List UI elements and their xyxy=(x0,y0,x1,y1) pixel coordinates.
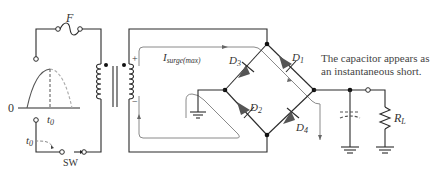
fuse-label: F xyxy=(65,11,74,25)
ground-wire xyxy=(198,90,225,112)
waveform-dashed-half xyxy=(50,69,72,108)
transformer-core xyxy=(113,66,117,107)
secondary-polarity-dot xyxy=(122,63,126,67)
primary-top-wire-right xyxy=(82,29,101,64)
load-wire-top xyxy=(370,90,385,107)
switch-terminal-left xyxy=(60,150,65,155)
output-circuit xyxy=(314,88,394,153)
d1-label: D1 xyxy=(291,51,304,65)
surge-current-label: Isurge(max) xyxy=(162,51,201,65)
t0-wave-label: t0 xyxy=(47,113,54,127)
load-label: RL xyxy=(393,111,406,126)
switch-timing-arrow xyxy=(35,141,52,146)
resistor-icon xyxy=(380,107,390,129)
primary-coil-icon xyxy=(97,64,102,99)
primary-terminal-bottom[interactable] xyxy=(34,118,39,123)
fuse-terminal-right xyxy=(78,27,83,32)
fuse-terminal-left xyxy=(56,27,61,32)
d2-label: D2 xyxy=(249,101,262,115)
output-terminal[interactable] xyxy=(366,88,371,93)
switch-timing-arrowhead-icon xyxy=(51,145,54,149)
primary-bottom-wire-left xyxy=(36,122,60,152)
d3-label: D3 xyxy=(228,54,241,68)
current-return-path xyxy=(139,94,239,138)
primary-circuit xyxy=(34,23,108,154)
primary-polarity-dot xyxy=(104,63,108,67)
capacitor-note-line1: The capacitor appears as xyxy=(321,52,429,64)
t0-switch-label: t0 xyxy=(26,134,33,148)
zero-label: 0 xyxy=(8,101,14,115)
current-up-arrow-icon xyxy=(137,114,141,119)
bridge-node-bottom xyxy=(265,133,270,138)
waveform-solid-half xyxy=(27,69,50,108)
primary-top-wire-left xyxy=(36,29,58,58)
current-down-arrow-icon xyxy=(318,135,322,140)
primary-bottom-wire-right xyxy=(86,99,101,152)
minus-sign: − xyxy=(132,96,138,107)
capacitor-note-line2: an instantaneous short. xyxy=(321,65,422,77)
primary-terminal-top[interactable] xyxy=(34,57,39,62)
input-waveform xyxy=(18,69,80,108)
switch-label: SW xyxy=(63,157,79,168)
current-right-arrow-icon xyxy=(222,45,228,49)
plus-sign: + xyxy=(132,53,138,64)
d4-label: D4 xyxy=(295,121,308,135)
bridge-node-top xyxy=(265,42,270,47)
bridge-rectifier-diagram: F 0 t0 t0 SW + − Isurge(max) D3 D1 D2 D4… xyxy=(0,0,435,172)
secondary-coil-icon xyxy=(129,64,134,99)
